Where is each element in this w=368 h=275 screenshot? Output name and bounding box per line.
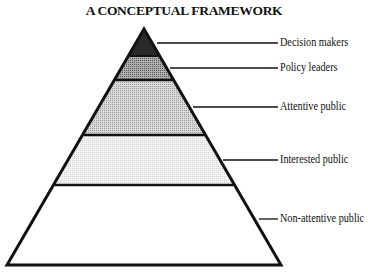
layer-decision-makers bbox=[129, 29, 158, 56]
label-non-attentive-public: Non-attentive public bbox=[280, 211, 364, 226]
layer-policy-leaders bbox=[115, 56, 172, 80]
layer-interested-public bbox=[55, 135, 234, 185]
label-policy-leaders: Policy leaders bbox=[280, 60, 338, 75]
label-decision-makers: Decision makers bbox=[280, 35, 348, 50]
label-interested-public: Interested public bbox=[280, 152, 348, 167]
layer-attentive-public bbox=[83, 80, 204, 135]
label-attentive-public: Attentive public bbox=[280, 99, 346, 114]
